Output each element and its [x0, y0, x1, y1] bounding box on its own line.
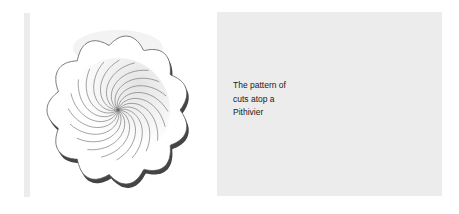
pithivier-illustration	[38, 18, 198, 198]
caption-line: The pattern of	[233, 79, 323, 93]
caption-line: cuts atop a	[233, 93, 323, 107]
caption-line: Pithivier	[233, 106, 323, 120]
figure-caption: The pattern of cuts atop a Pithivier	[233, 79, 323, 120]
caption-panel: The pattern of cuts atop a Pithivier	[217, 12, 442, 196]
pithivier-drawing-icon	[38, 18, 198, 198]
margin-strip	[24, 13, 30, 197]
